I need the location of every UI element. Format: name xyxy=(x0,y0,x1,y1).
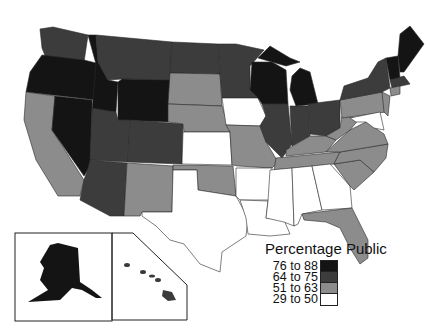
legend-title: Percentage Public xyxy=(265,240,387,257)
state-alaska xyxy=(28,243,102,302)
state-arkansas xyxy=(236,168,272,200)
state-maine xyxy=(398,26,424,72)
state-montana xyxy=(96,35,172,80)
state-mississippi xyxy=(266,168,294,226)
state-michigan xyxy=(290,68,318,106)
state-south-dakota xyxy=(168,73,222,106)
legend-item: 29 to 50 xyxy=(273,293,343,306)
legend-swatch xyxy=(320,293,338,306)
legend-label: 29 to 50 xyxy=(273,293,318,306)
state-new-mexico xyxy=(124,163,173,216)
state-hawaii xyxy=(124,263,176,301)
state-north-dakota xyxy=(170,42,220,74)
us-map xyxy=(0,0,447,333)
state-iowa xyxy=(222,98,266,126)
state-wyoming xyxy=(118,79,170,122)
choropleth-map: Percentage Public 76 to 88 64 to 75 51 t… xyxy=(0,0,447,333)
state-colorado xyxy=(128,120,183,164)
state-kansas xyxy=(182,132,232,165)
state-connecticut xyxy=(390,86,400,96)
